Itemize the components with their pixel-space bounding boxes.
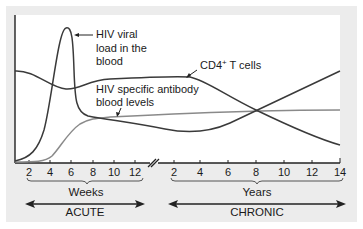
- hiv-progression-chart: HIV viral load in the blood CD4+ T cells…: [0, 0, 363, 229]
- svg-text:12: 12: [306, 166, 318, 178]
- svg-text:6: 6: [225, 166, 231, 178]
- years-tick-labels: 2 4 6 8 10 12 14: [171, 166, 346, 178]
- viral-label-line2: load in the: [96, 42, 147, 54]
- svg-text:10: 10: [108, 166, 120, 178]
- svg-text:4: 4: [197, 166, 203, 178]
- cd4-label: CD4+ T cells: [186, 58, 262, 78]
- cd4-label-main: CD4: [200, 59, 222, 71]
- svg-text:6: 6: [68, 166, 74, 178]
- svg-text:10: 10: [278, 166, 290, 178]
- x-ticks: [29, 158, 340, 163]
- viral-label-line1: HIV viral: [96, 28, 138, 40]
- viral-load-label: HIV viral load in the blood: [74, 28, 147, 67]
- chronic-label: CHRONIC: [230, 206, 284, 218]
- antibody-label: HIV specific antibody blood levels: [96, 83, 199, 117]
- svg-text:2: 2: [26, 166, 32, 178]
- viral-label-line3: blood: [96, 55, 123, 67]
- antibody-label-line1: HIV specific antibody: [96, 83, 199, 95]
- weeks-label: Weeks: [69, 186, 104, 198]
- weeks-brace: [27, 178, 143, 184]
- antibody-curve: [15, 110, 340, 162]
- cd4-label-rest: T cells: [227, 59, 262, 71]
- svg-text:14: 14: [334, 166, 346, 178]
- svg-text:4: 4: [47, 166, 53, 178]
- years-label: Years: [243, 186, 272, 198]
- svg-text:12: 12: [129, 166, 141, 178]
- years-brace: [171, 178, 343, 184]
- weeks-tick-labels: 2 4 6 8 10 12: [26, 166, 141, 178]
- svg-text:2: 2: [171, 166, 177, 178]
- svg-text:8: 8: [90, 166, 96, 178]
- antibody-label-line2: blood levels: [96, 96, 155, 108]
- svg-text:CD4+ T cells: CD4+ T cells: [200, 58, 262, 71]
- svg-text:8: 8: [253, 166, 259, 178]
- acute-label: ACUTE: [66, 206, 105, 218]
